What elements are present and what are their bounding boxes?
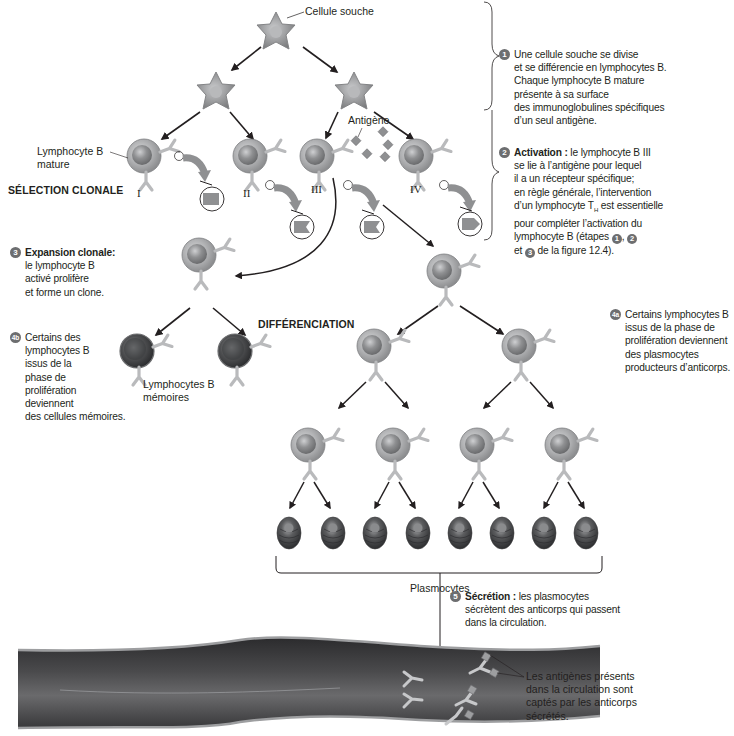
diff-b-cell-4 (376, 428, 428, 479)
steps-brace (484, 2, 499, 110)
step-5-text: 5 Sécrétion : les plasmocytes sécrètent … (450, 590, 620, 630)
step-5-badge: 5 (450, 591, 461, 602)
diff-b-cell-5 (460, 428, 512, 479)
step-4a-text: 4a Certains lymphocytes B issus de la ph… (610, 308, 730, 374)
cell-label-II: II (243, 187, 250, 199)
diff-b-cell-1 (357, 329, 409, 380)
cell-label-IV: IV (410, 183, 422, 195)
step-1-text: 1 Une cellule souche se divise et se dif… (499, 48, 667, 127)
step-2-text: 2 Activation : le lymphocyte B III se li… (499, 146, 663, 258)
step-4a-badge: 4a (610, 309, 621, 320)
step-3-text: 3 Expansion clonale: le lymphocyte B act… (10, 246, 115, 299)
plasmocyte-row (277, 517, 598, 549)
antigen-cluster (351, 127, 393, 162)
b-cell-IV (399, 139, 451, 190)
step-4b-badge: 4b (10, 332, 21, 343)
memory-b-cell-2 (218, 334, 270, 385)
ref-badge-3: 3 (525, 248, 535, 258)
diff-b-cell-6 (545, 428, 597, 479)
circulation-note: Les antigènes présents dans la circulati… (526, 670, 637, 723)
b-cell-II (233, 139, 285, 190)
cell-label-III: III (311, 183, 322, 195)
receptor-zoom-I (175, 152, 225, 212)
ref-badge-2: 2 (627, 234, 637, 244)
receptor-zoom-IV (440, 181, 483, 237)
clonal-selection-heading: SÉLECTION CLONALE (8, 184, 123, 197)
receptor-zoom-II (266, 181, 315, 240)
plasmocytes-bracket (276, 556, 602, 573)
step-2-badge: 2 (499, 147, 510, 158)
ref-badge-1: 1 (612, 234, 622, 244)
antigen-label: Antigène (348, 114, 389, 127)
step-3-badge: 3 (10, 247, 21, 258)
stem-daughter-left (197, 72, 235, 109)
differentiation-heading: DIFFÉRENCIATION (258, 318, 354, 331)
mature-b-label: Lymphocyte B mature (37, 145, 103, 171)
cell-label-I: I (137, 187, 141, 199)
memory-b-label: Lymphocytes B mémoires (143, 378, 214, 404)
activated-b-cell-right (427, 254, 479, 305)
step-1-badge: 1 (499, 49, 510, 60)
diff-b-cell-2 (502, 329, 554, 380)
stem-daughter-right (335, 72, 373, 109)
receptor-zoom-III (344, 181, 385, 240)
b-cell-I (127, 139, 179, 190)
step-4b-text: 4b Certains des lymphocytes B issus de l… (10, 331, 125, 423)
activated-b-cell-left (182, 238, 234, 289)
diff-b-cell-3 (291, 428, 343, 479)
stem-cell-label: Cellule souche (305, 5, 374, 18)
